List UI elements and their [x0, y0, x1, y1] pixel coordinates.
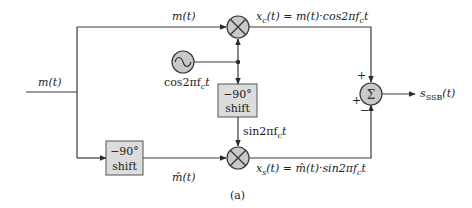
xc-wire: [249, 27, 371, 82]
top-multiplier: [227, 16, 249, 38]
sign-top: +: [357, 69, 366, 82]
upper-path-label: m(t): [172, 10, 195, 23]
xc-label: xc(t) = m(t)·cos2πfct: [256, 10, 369, 25]
svg-text:shift: shift: [112, 160, 137, 173]
xs-label: xs(t) = m̂(t)·sin2πfct: [256, 162, 367, 177]
oscillator: [172, 51, 194, 73]
svg-text:shift: shift: [225, 102, 250, 115]
figure-caption: (a): [230, 189, 245, 202]
svg-text:−90°: −90°: [223, 88, 252, 101]
top-phase-shift-box: −90° shift: [218, 84, 257, 117]
input-label: m(t): [38, 76, 61, 89]
oscillator-label: cos2πfct: [164, 76, 210, 91]
sign-bottom: −: [360, 104, 369, 117]
bottom-multiplier: [227, 147, 249, 169]
sigma-icon: Σ: [367, 88, 375, 102]
svg-text:−90°: −90°: [110, 145, 139, 158]
output-label: sSSB(t): [420, 87, 455, 102]
summer: Σ: [360, 83, 382, 105]
sin-label: sin2πfct: [243, 125, 287, 140]
left-phase-shift-box: −90° shift: [106, 141, 143, 175]
ssb-modulator-diagram: m(t) m(t) cos2πfct −90° shift sin2πfct −…: [0, 0, 472, 208]
hilbert-label: m̂(t): [172, 171, 195, 184]
